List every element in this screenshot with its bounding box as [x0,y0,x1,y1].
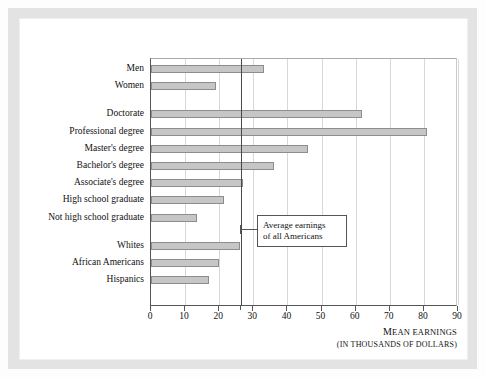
callout-line-1: Average earnings [263,220,341,231]
average-earnings-reference-line [241,59,242,305]
category-label: Doctorate [107,108,144,118]
category-label: Not high school graduate [48,212,144,222]
page-background: Average earnings of all Americans MEAN E… [0,0,485,377]
bar [151,162,274,170]
x-axis-title: MEAN EARNINGS [240,326,457,337]
bar [151,196,224,204]
category-label: Hispanics [107,274,144,284]
x-axis-subtitle: (IN THOUSANDS OF DOLLARS) [240,340,457,349]
x-axis-tick-label: 0 [138,311,162,321]
bar [151,242,240,250]
bar [151,145,308,153]
category-label: Bachelor's degree [77,160,144,170]
gridline [287,59,288,305]
category-label: Professional degree [69,126,144,136]
bar [151,276,209,284]
x-axis-subtitle-rest: N THOUSANDS OF DOLLARS [343,340,455,349]
category-label: Whites [117,240,144,250]
callout-leader-line [240,229,258,230]
category-label: Men [127,63,144,73]
average-earnings-callout: Average earnings of all Americans [257,215,347,247]
x-axis-tick-label: 10 [172,311,196,321]
bar [151,65,264,73]
gridline [458,59,459,305]
x-axis-tick-label: 30 [240,311,264,321]
bar [151,179,243,187]
x-axis-tick-label: 90 [445,311,469,321]
category-label: Associate's degree [74,177,144,187]
category-label: Master's degree [85,143,144,153]
gridline [356,59,357,305]
bar [151,110,362,118]
bar-chart: Average earnings of all Americans MEAN E… [0,0,485,377]
x-axis-tick-label: 50 [309,311,333,321]
x-axis-tick-label: 20 [206,311,230,321]
category-label: Women [115,80,144,90]
bar [151,82,216,90]
x-axis-tick-label: 40 [274,311,298,321]
x-axis-title-initial: M [383,326,392,337]
plot-area [150,58,457,306]
gridline [390,59,391,305]
category-label: African Americans [72,257,144,267]
gridline [424,59,425,305]
gridline [322,59,323,305]
x-axis-tick-label: 60 [343,311,367,321]
category-label: High school graduate [63,194,144,204]
bar [151,214,197,222]
bar [151,128,427,136]
x-axis-tick-label: 70 [377,311,401,321]
average-reference-tick [240,306,241,310]
x-axis-title-rest: EAN EARNINGS [392,327,457,337]
gridline [253,59,254,305]
x-axis-tick-label: 80 [411,311,435,321]
bar [151,259,219,267]
callout-line-2: of all Americans [263,231,341,242]
